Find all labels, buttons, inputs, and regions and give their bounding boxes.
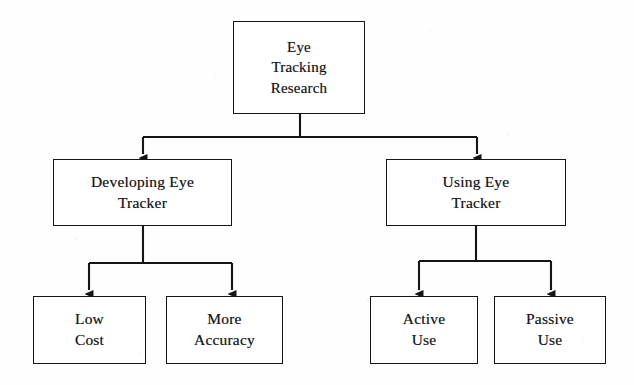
node-low-cost: Low Cost xyxy=(33,296,146,364)
node-using-eye-tracker: Using Eye Tracker xyxy=(386,159,566,226)
node-label-active-use: Active Use xyxy=(399,309,450,351)
node-developing-eye-tracker: Developing Eye Tracker xyxy=(53,159,232,226)
node-more-accuracy: More Accuracy xyxy=(166,296,283,364)
node-label-passive-use: Passive Use xyxy=(522,309,578,351)
node-active-use: Active Use xyxy=(370,296,478,364)
node-eye-tracking-research: Eye Tracking Research xyxy=(233,21,365,114)
diagram-canvas: Eye Tracking Research Developing Eye Tra… xyxy=(0,0,634,385)
node-label-using-eye-tracker: Using Eye Tracker xyxy=(439,172,514,214)
node-label-eye-tracking-research: Eye Tracking Research xyxy=(267,37,332,97)
node-label-more-accuracy: More Accuracy xyxy=(190,309,259,351)
node-label-low-cost: Low Cost xyxy=(71,309,108,351)
node-label-developing-eye-tracker: Developing Eye Tracker xyxy=(87,172,198,214)
node-passive-use: Passive Use xyxy=(494,296,606,364)
